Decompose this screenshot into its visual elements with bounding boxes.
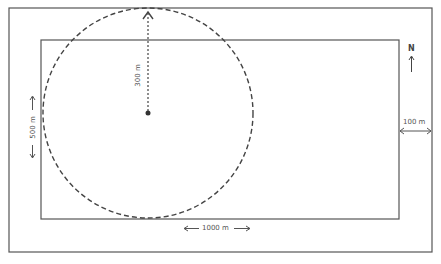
outer-boundary: [9, 8, 432, 252]
width-label: 1000 m: [202, 225, 229, 232]
site-plan-diagram: 300 m 500 m 1000 m 100 m N: [0, 0, 441, 264]
north-label: N: [408, 45, 415, 53]
inner-boundary: [41, 40, 399, 219]
radius-label: 300 m: [135, 64, 142, 86]
center-point: [146, 111, 151, 116]
height-label: 500 m: [30, 116, 37, 138]
margin-label: 100 m: [403, 119, 425, 126]
